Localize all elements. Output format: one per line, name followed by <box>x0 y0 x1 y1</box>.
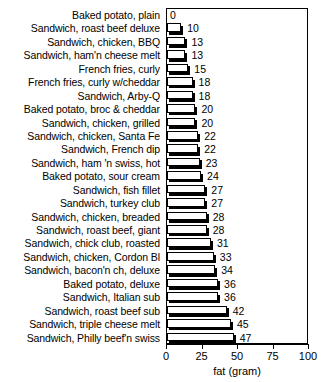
bar-value-label: 24 <box>207 169 219 183</box>
bar-body <box>167 171 201 180</box>
bar <box>167 265 215 274</box>
category-label: Sandwich, ham 'n swiss, hot <box>0 156 160 170</box>
bar-row: Baked potato, sour cream24 <box>0 169 322 183</box>
x-tick-label: 100 <box>288 350 322 363</box>
bar <box>167 118 195 127</box>
bar-row: Sandwich, chicken, grilled20 <box>0 116 322 130</box>
bar-body <box>167 50 185 59</box>
category-label: Sandwich, chick club, roasted <box>0 236 160 250</box>
bar-body <box>167 91 193 100</box>
bar-body <box>167 279 218 288</box>
bar-value-label: 36 <box>224 290 236 304</box>
bar-chart: Baked potato, plain0Sandwich, roast beef… <box>0 0 322 382</box>
category-label: Baked potato, broc & cheddar <box>0 102 160 116</box>
bar-body <box>167 131 198 140</box>
bar-row: Sandwich, Italian sub36 <box>0 290 322 304</box>
category-label: Sandwich, Philly beef'n swiss <box>0 331 160 345</box>
bar-value-label: 20 <box>201 102 213 116</box>
category-label: Sandwich, fish fillet <box>0 183 160 197</box>
bar <box>167 225 207 234</box>
category-label: Baked potato, sour cream <box>0 169 160 183</box>
bar <box>167 144 198 153</box>
bar-body <box>167 198 205 207</box>
bar-body <box>167 77 193 86</box>
bar-row: Sandwich, chicken, Santa Fe22 <box>0 129 322 143</box>
bar-row: Sandwich, bacon'n ch, deluxe34 <box>0 263 322 277</box>
bar-body <box>167 238 211 247</box>
bar-value-label: 31 <box>217 236 229 250</box>
category-label: Sandwich, chicken, BBQ <box>0 35 160 49</box>
category-label: Sandwich, turkey club <box>0 196 160 210</box>
bar <box>167 158 200 167</box>
bar-body <box>167 265 215 274</box>
bar-value-label: 27 <box>211 183 223 197</box>
bar-row: Baked potato, broc & cheddar20 <box>0 102 322 116</box>
bar-row: Sandwich, chicken, breaded28 <box>0 210 322 224</box>
x-tick <box>202 344 203 349</box>
bar <box>167 77 193 86</box>
bar-body <box>167 333 234 342</box>
category-label: Sandwich, Arby-Q <box>0 89 160 103</box>
bar-row: Sandwich, triple cheese melt45 <box>0 317 322 331</box>
bar-value-label: 45 <box>237 317 249 331</box>
category-label: Sandwich, roast beef, giant <box>0 223 160 237</box>
category-label: Sandwich, bacon'n ch, deluxe <box>0 263 160 277</box>
bar-row: Sandwich, turkey club27 <box>0 196 322 210</box>
bar-row: Sandwich, fish fillet27 <box>0 183 322 197</box>
bar-body <box>167 64 188 73</box>
bar-value-label: 10 <box>187 21 199 35</box>
bar-value-label: 20 <box>201 116 213 130</box>
x-axis-title: fat (gram) <box>166 365 308 378</box>
bar-body <box>167 144 198 153</box>
bar-row: Sandwich, chick club, roasted31 <box>0 236 322 250</box>
category-label: Sandwich, roast beef sub <box>0 304 160 318</box>
bar <box>167 238 211 247</box>
bar <box>167 171 201 180</box>
bar <box>167 64 188 73</box>
bar <box>167 198 205 207</box>
x-tick-label: 0 <box>146 350 186 363</box>
bar-value-label: 28 <box>213 223 225 237</box>
bar-body <box>167 185 205 194</box>
category-label: French fries, curly <box>0 62 160 76</box>
bar-row: French fries, curly15 <box>0 62 322 76</box>
category-label: Sandwich, triple cheese melt <box>0 317 160 331</box>
bar-value-label: 15 <box>194 62 206 76</box>
x-tick <box>237 344 238 349</box>
bar-body <box>167 104 195 113</box>
bar-value-label: 18 <box>199 75 211 89</box>
bar-body <box>167 252 214 261</box>
x-tick <box>273 344 274 349</box>
category-label: Baked potato, plain <box>0 8 160 22</box>
bar-value-label: 23 <box>206 156 218 170</box>
bar-row: Sandwich, roast beef sub42 <box>0 304 322 318</box>
category-label: Sandwich, ham'n cheese melt <box>0 48 160 62</box>
bar-body <box>167 118 195 127</box>
category-label: Sandwich, roast beef deluxe <box>0 21 160 35</box>
bar-value-label: 42 <box>233 304 245 318</box>
bar-row: Sandwich, chicken, Cordon Bl33 <box>0 250 322 264</box>
bar-value-label: 13 <box>191 48 203 62</box>
category-label: Sandwich, chicken, grilled <box>0 116 160 130</box>
bar-value-label: 47 <box>240 331 252 345</box>
category-label: Sandwich, chicken, breaded <box>0 210 160 224</box>
bar-row: Sandwich, ham 'n swiss, hot23 <box>0 156 322 170</box>
bar <box>167 319 231 328</box>
bar-row: Sandwich, chicken, BBQ13 <box>0 35 322 49</box>
bar-row: Sandwich, ham'n cheese melt13 <box>0 48 322 62</box>
category-label: French fries, curly w/cheddar <box>0 75 160 89</box>
bar-value-label: 0 <box>170 8 176 22</box>
bar <box>167 104 195 113</box>
bar-value-label: 27 <box>211 196 223 210</box>
bar <box>167 252 214 261</box>
bar-value-label: 22 <box>204 129 216 143</box>
bar <box>167 131 198 140</box>
bar-body <box>167 212 207 221</box>
bar-value-label: 36 <box>224 277 236 291</box>
bar-value-label: 13 <box>191 35 203 49</box>
x-tick-label: 50 <box>217 350 257 363</box>
bar-row: Sandwich, roast beef, giant28 <box>0 223 322 237</box>
bar-body <box>167 319 231 328</box>
bar <box>167 333 234 342</box>
bar-row: Sandwich, Philly beef'n swiss47 <box>0 331 322 345</box>
